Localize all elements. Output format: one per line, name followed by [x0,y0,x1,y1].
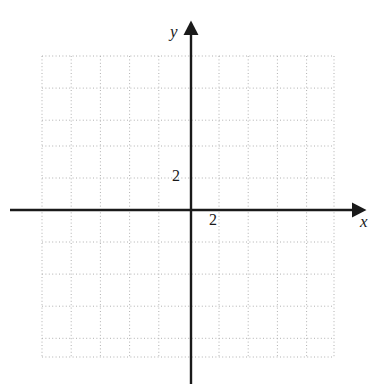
x-axis-label: x [360,212,368,232]
x-axis-tick-label-2: 2 [209,211,217,229]
graph-canvas: y x 2 2 [0,0,382,384]
grid-horizontal-lines [42,56,334,357]
y-axis-tick-label-2: 2 [172,167,180,185]
y-axis-label: y [170,22,178,42]
coordinate-plane [0,0,382,384]
grid-vertical-lines [42,56,334,357]
